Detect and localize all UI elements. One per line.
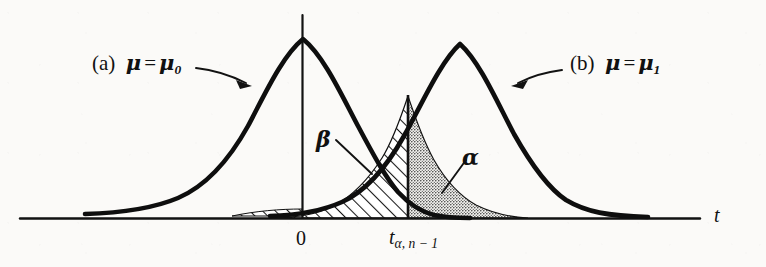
leader-arrow-curve-b bbox=[511, 70, 562, 89]
curve-b-mu: μ bbox=[605, 50, 620, 75]
curve-b-subscript: 1 bbox=[654, 62, 661, 77]
curve-b-label: (b) μ=μ1 bbox=[570, 52, 660, 76]
curve-b-equals: = bbox=[620, 51, 638, 75]
critical-value-tick-label: tα, n − 1 bbox=[389, 227, 438, 251]
distribution-figure-svg bbox=[0, 0, 766, 267]
curve-a-mu: μ bbox=[126, 50, 141, 75]
origin-tick-label: 0 bbox=[296, 228, 306, 248]
leader-arrow-curve-a bbox=[196, 68, 252, 89]
curve-a-subscript: 0 bbox=[174, 62, 181, 77]
figure-container: (a) μ=μ0 (b) μ=μ1 β α 0 tα, n − 1 t bbox=[0, 0, 766, 267]
curve-a-prefix: (a) bbox=[92, 51, 115, 75]
beta-region-shading bbox=[268, 88, 410, 220]
axis-name-label: t bbox=[714, 205, 720, 225]
curve-a-label: (a) μ=μ0 bbox=[92, 52, 181, 76]
curve-b-prefix: (b) bbox=[570, 51, 595, 75]
curve-b-value-mu: μ bbox=[638, 50, 653, 75]
critical-value-subscript: α, n − 1 bbox=[395, 236, 439, 251]
alpha-region-label: α bbox=[462, 146, 479, 168]
beta-region-label: β bbox=[316, 128, 331, 150]
curve-a-value-mu: μ bbox=[159, 50, 174, 75]
curve-a-equals: = bbox=[141, 51, 159, 75]
